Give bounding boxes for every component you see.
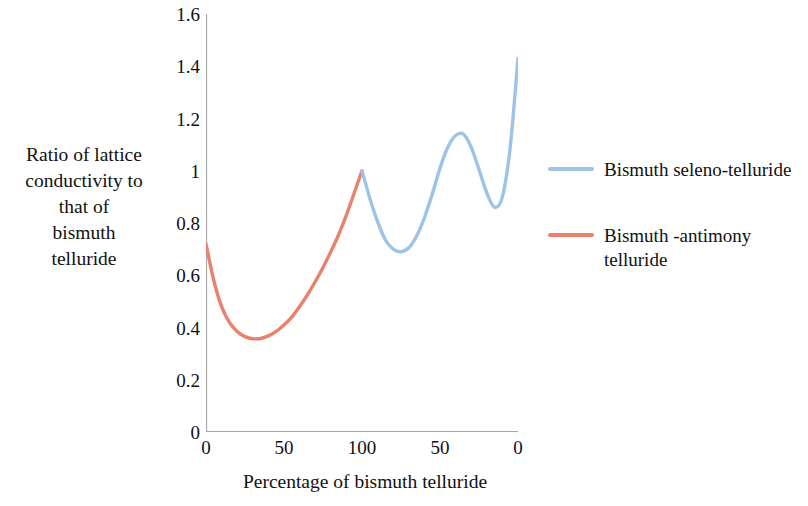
chart-figure: Ratio of lattice conductivity to that of… [0, 0, 808, 506]
y-axis-tick-label: 0.6 [154, 266, 200, 285]
y-axis-title: Ratio of lattice conductivity to that of… [2, 142, 166, 272]
legend-item-bismuth-antimony-telluride[interactable]: Bismuth -antimony telluride [548, 224, 806, 272]
series-line-0 [206, 171, 362, 339]
legend-item-bismuth-seleno-telluride[interactable]: Bismuth seleno-telluride [548, 158, 806, 184]
y-axis-tick-labels: 00.20.40.60.811.21.41.6 [148, 0, 200, 446]
y-axis-tick-label: 0.2 [154, 371, 200, 390]
x-axis-tick-label: 100 [332, 437, 392, 459]
legend-label-series-1: Bismuth seleno-telluride [604, 158, 806, 182]
y-axis-title-line-1: Ratio of lattice [2, 142, 166, 168]
legend-color-swatch-series-0 [548, 233, 594, 237]
chart-canvas [206, 14, 518, 432]
y-axis-title-line-5: telluride [2, 246, 166, 272]
y-axis-tick-label: 1 [154, 162, 200, 181]
legend-label-series-1-line-1: Bismuth seleno-telluride [604, 158, 806, 182]
x-axis-tick-label: 50 [410, 437, 470, 459]
y-axis-title-line-2: conductivity to [2, 168, 166, 194]
x-axis-tick-label: 0 [488, 437, 548, 459]
y-axis-title-line-4: bismuth [2, 220, 166, 246]
legend-color-swatch-series-1 [548, 167, 594, 171]
y-axis-tick-label: 0.8 [154, 214, 200, 233]
y-axis-title-line-3: that of [2, 194, 166, 220]
legend-label-series-0-line-2: telluride [604, 248, 806, 272]
axis-lines [207, 14, 519, 432]
y-axis-tick-label: 1.4 [154, 57, 200, 76]
y-axis-tick-label: 1.2 [154, 110, 200, 129]
y-axis-tick-label: 0.4 [154, 319, 200, 338]
plot-area [206, 14, 518, 432]
x-axis-tick-labels: 050100500 [0, 437, 808, 465]
x-axis-tick-label: 0 [176, 437, 236, 459]
legend-label-series-0-line-1: Bismuth -antimony [604, 224, 806, 248]
x-axis-title: Percentage of bismuth telluride [150, 470, 580, 494]
y-axis-tick-label: 1.6 [154, 5, 200, 24]
chart-legend: Bismuth seleno-telluride Bismuth -antimo… [548, 158, 806, 312]
legend-label-series-0: Bismuth -antimony telluride [604, 224, 806, 272]
x-axis-tick-label: 50 [254, 437, 314, 459]
series-line-1 [362, 58, 518, 251]
